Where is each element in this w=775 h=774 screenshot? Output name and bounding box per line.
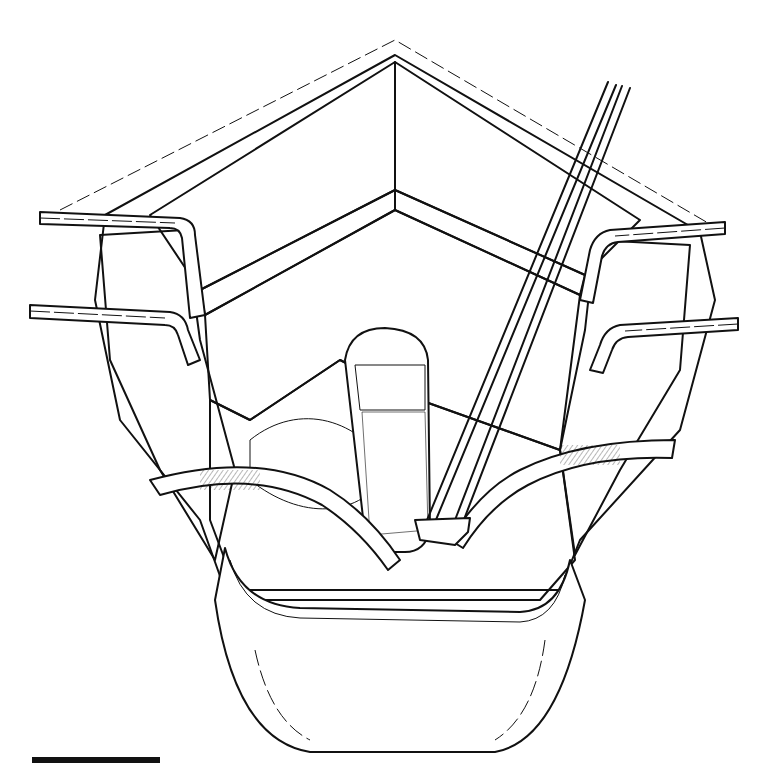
fat-layer-right	[395, 62, 640, 295]
surgical-illustration	[0, 0, 775, 774]
blade-retractor-bottom	[215, 548, 585, 752]
scale-bar	[32, 757, 160, 763]
malleable-retractor-right	[450, 440, 675, 548]
retractor-right-lower	[590, 318, 738, 373]
wall-tissue-left	[100, 230, 235, 560]
retractor-right-upper	[580, 222, 725, 303]
retractor-left-lower	[30, 305, 200, 365]
retractor-left-upper	[40, 212, 205, 318]
wall-tissue-right	[560, 240, 690, 555]
